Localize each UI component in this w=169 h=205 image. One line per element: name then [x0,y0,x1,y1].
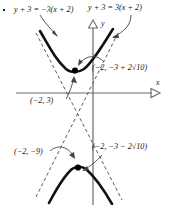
asymptote-negative-slope [36,33,122,200]
arrow-point-lower-head [69,152,75,159]
y-axis-label: y [101,20,105,28]
vertex-dot-lower [75,164,81,170]
asymptote-left-label: y + 3 = −3(x + 2) [14,6,73,14]
bullet-marker [3,9,5,11]
point-lower-box-label: (−2, −9) [14,148,43,156]
vertex-bottom-label: (−2, −3 − 2√10) [92,143,147,151]
arrow-point-upper-head [71,76,77,83]
asymptote-positive-slope [36,33,118,197]
arrow-asymptote-right-head [112,34,119,38]
y-axis-arrowhead [89,20,98,28]
arrow-asymptote-right [113,15,131,37]
asymptote-right-label: y + 3 = 3(x + 2) [88,4,142,12]
hyperbola-figure: y + 3 = −3(x + 2) y + 3 = 3(x + 2) (−2, … [0,0,169,205]
x-axis-label: x [156,79,160,87]
asymptotes-group [36,33,122,200]
point-upper-box-label: (−2, 3) [30,97,53,105]
vertex-top-label: (−2, −3 + 2√10) [92,64,147,72]
lower-branch [49,167,112,204]
vertex-dot-upper [72,67,78,73]
axes-group [16,20,160,205]
x-axis-arrowhead [151,89,160,98]
graph-canvas [0,0,169,205]
